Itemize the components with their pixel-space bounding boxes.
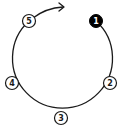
node-3-label: 3 bbox=[58, 114, 64, 123]
node-5: 5 bbox=[23, 15, 36, 28]
node-2-label: 2 bbox=[107, 79, 113, 88]
node-1: 1 bbox=[90, 15, 103, 28]
cycle-diagram: 1 2 3 4 5 bbox=[0, 0, 125, 133]
cycle-arrow bbox=[33, 7, 63, 18]
node-4: 4 bbox=[6, 77, 19, 90]
cycle-path bbox=[12, 21, 112, 108]
node-2: 2 bbox=[104, 77, 117, 90]
node-3: 3 bbox=[55, 112, 68, 125]
node-1-label: 1 bbox=[93, 17, 99, 26]
node-4-label: 4 bbox=[9, 79, 15, 88]
node-5-label: 5 bbox=[26, 17, 32, 26]
